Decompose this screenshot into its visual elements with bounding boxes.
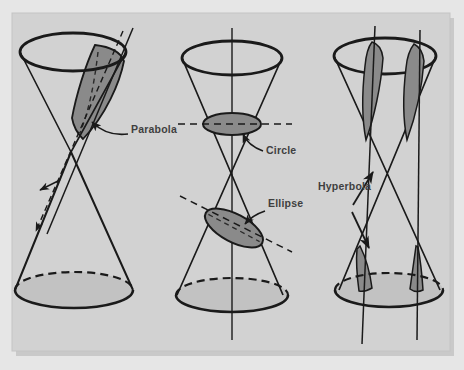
conic-sections-figure: Parabola Circle Ellipse Hyperbola (0, 0, 464, 370)
label-parabola: Parabola (131, 123, 177, 135)
label-circle: Circle (266, 144, 296, 156)
label-hyperbola: Hyperbola (318, 180, 371, 192)
label-ellipse: Ellipse (268, 197, 303, 209)
conic-sections-diagram: Parabola Circle Ellipse Hyperbola (0, 0, 464, 370)
